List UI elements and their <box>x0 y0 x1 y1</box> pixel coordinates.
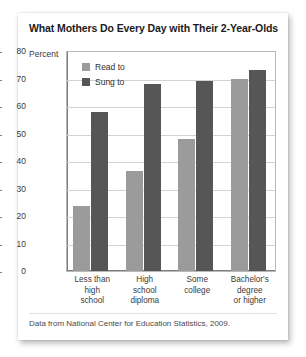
legend-swatch-icon-sung-to <box>82 78 90 86</box>
y-axis-tick-label: 10 <box>2 239 26 249</box>
x-axis-tick-label-line: high <box>66 286 119 297</box>
x-axis-tick-label-line: school <box>119 286 172 297</box>
chart-source-note: Data from National Center for Education … <box>29 319 230 328</box>
x-axis-tick-label: Somecollege <box>171 275 224 296</box>
y-axis-tick-label: 30 <box>2 184 26 194</box>
bar-read-to <box>73 206 90 271</box>
y-axis-tick-label: 20 <box>2 211 26 221</box>
y-axis-tick-mark <box>0 217 2 218</box>
legend-label-read-to: Read to <box>95 62 125 72</box>
x-axis-tick-label-line: college <box>171 286 224 297</box>
x-axis-tick-label: Less thanhighschool <box>66 275 119 307</box>
y-axis-tick-label: 50 <box>2 129 26 139</box>
bar-group <box>171 51 224 271</box>
x-axis-tick-label-line: Some <box>171 275 224 286</box>
x-axis-tick-label: Highschooldiploma <box>119 275 172 307</box>
x-axis-tick-labels: Less thanhighschoolHighschooldiplomaSome… <box>66 275 276 315</box>
chart-legend: Read to Sung to <box>82 60 125 90</box>
legend-swatch-icon-read-to <box>82 63 90 71</box>
y-axis-tick-label: 60 <box>2 101 26 111</box>
bar-read-to <box>231 79 248 272</box>
y-axis-tick-label: 70 <box>2 74 26 84</box>
y-axis-tick-mark <box>0 80 2 81</box>
y-axis-tick-mark <box>0 162 2 163</box>
y-axis-tick-label: 80 <box>2 46 26 56</box>
x-axis-tick-label-line: degree <box>224 286 277 297</box>
bar-read-to <box>126 171 143 271</box>
y-axis-tick-mark <box>0 272 2 273</box>
x-axis-tick-label-line: Bachelor's <box>224 275 277 286</box>
y-axis-tick-mark <box>0 52 2 53</box>
y-axis-tick-mark <box>0 107 2 108</box>
legend-label-sung-to: Sung to <box>95 77 124 87</box>
y-axis-tick-label: 40 <box>2 156 26 166</box>
x-axis-tick-label: Bachelor'sdegreeor higher <box>224 275 277 307</box>
y-axis-tick-mark <box>0 135 2 136</box>
y-axis-tick-mark <box>0 190 2 191</box>
bar-sung-to <box>196 81 213 271</box>
bar-group <box>119 51 172 271</box>
x-axis-tick-label-line: High <box>119 275 172 286</box>
x-axis-tick-label-line: diploma <box>119 296 172 307</box>
y-axis-tick-mark <box>0 245 2 246</box>
bar-group <box>224 51 277 271</box>
chart-card: What Mothers Do Every Day with Their 2-Y… <box>18 13 288 340</box>
bar-sung-to <box>144 84 161 271</box>
chart-title: What Mothers Do Every Day with Their 2-Y… <box>29 22 281 34</box>
legend-item-read-to: Read to <box>82 60 125 73</box>
bar-read-to <box>178 139 195 271</box>
y-axis-caption: Percent <box>29 49 58 59</box>
bar-sung-to <box>91 112 108 272</box>
x-axis-tick-label-line: Less than <box>66 275 119 286</box>
x-axis-tick-label-line: school <box>66 296 119 307</box>
bar-sung-to <box>249 70 266 271</box>
y-axis-tick-label: 0 <box>2 266 26 276</box>
footnote-divider <box>29 313 277 314</box>
legend-item-sung-to: Sung to <box>82 75 125 88</box>
x-axis-tick-label-line: or higher <box>224 296 277 307</box>
